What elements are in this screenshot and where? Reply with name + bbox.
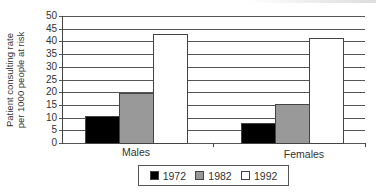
y-tick-label: 30: [37, 61, 57, 72]
legend-swatch-icon: [195, 171, 204, 180]
bar-females-1992: [309, 38, 344, 144]
legend-swatch-icon: [241, 171, 250, 180]
legend-label: 1972: [163, 170, 186, 182]
x-axis-tick: [365, 143, 366, 147]
legend-label: 1982: [208, 170, 231, 182]
bar-chart-plot-area: 05101520253035404550MalesFemales: [0, 0, 376, 160]
bar-females-1972: [241, 123, 276, 144]
y-tick-label: 5: [37, 124, 57, 135]
legend-item-1982: 1982: [195, 170, 231, 182]
legend-item-1992: 1992: [241, 170, 277, 182]
y-tick-label: 10: [37, 112, 57, 123]
gridline: [59, 16, 365, 17]
y-tick-label: 15: [37, 99, 57, 110]
bar-males-1992: [153, 34, 188, 144]
x-axis-tick: [213, 143, 214, 147]
bar-males-1982: [119, 93, 154, 144]
legend-label: 1992: [254, 170, 277, 182]
y-tick-label: 50: [37, 10, 57, 21]
bar-males-1972: [85, 116, 120, 144]
y-tick-label: 35: [37, 48, 57, 59]
y-tick-label: 45: [37, 23, 57, 34]
legend-swatch-icon: [150, 171, 159, 180]
y-tick-label: 25: [37, 74, 57, 85]
y-tick-label: 0: [37, 137, 57, 148]
x-category-label: Females: [264, 148, 344, 160]
y-axis: [62, 16, 63, 144]
chart-legend: 197219821992: [138, 165, 289, 186]
y-tick-label: 40: [37, 35, 57, 46]
x-category-label: Males: [96, 146, 176, 158]
y-tick-label: 20: [37, 86, 57, 97]
bar-females-1982: [275, 104, 310, 144]
gridline: [59, 29, 365, 30]
legend-item-1972: 1972: [150, 170, 186, 182]
